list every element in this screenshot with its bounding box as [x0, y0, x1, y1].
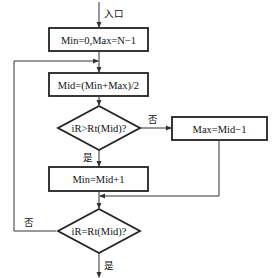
- cmp-gt-decision: iR>Rt(Mid)?: [58, 106, 140, 150]
- cmp-gt-text: iR>Rt(Mid)?: [72, 123, 127, 135]
- mid-text: Mid=(Min+Max)/2: [58, 80, 139, 92]
- set-max-process-box: Max=Mid−1: [172, 117, 267, 140]
- cmp-eq-no-label: 否: [24, 217, 34, 228]
- cmp-gt-yes-label: 是: [83, 152, 93, 163]
- set-min-process-box: Min=Mid+1: [49, 167, 148, 191]
- set-max-text: Max=Mid−1: [193, 124, 247, 135]
- binary-search-flowchart: 入口 Min=0,Max=N−1 Mid=(Min+Max)/2 iR>Rt(M…: [0, 0, 276, 278]
- mid-process-box: Mid=(Min+Max)/2: [49, 73, 148, 96]
- cmp-gt-no-label: 否: [148, 114, 158, 125]
- set-min-text: Min=Mid+1: [72, 174, 124, 185]
- cmp-eq-yes-label: 是: [104, 260, 114, 271]
- init-text: Min=0,Max=N−1: [61, 35, 136, 46]
- cmp-eq-text: iR=Rt(Mid)?: [72, 226, 127, 238]
- init-process-box: Min=0,Max=N−1: [49, 28, 148, 51]
- entry-label: 入口: [104, 8, 124, 19]
- cmp-eq-decision: iR=Rt(Mid)?: [58, 209, 140, 253]
